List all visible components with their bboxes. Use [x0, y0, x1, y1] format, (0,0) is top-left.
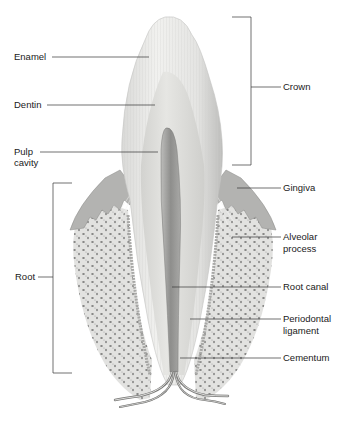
label-cementum: Cementum	[283, 352, 329, 363]
label-pulp-line1: Pulp	[14, 146, 33, 157]
root-bracket	[53, 183, 72, 373]
label-root: Root	[15, 271, 35, 282]
label-alveolar-line2: process	[283, 243, 316, 254]
label-crown: Crown	[283, 81, 310, 92]
label-periodontal-line2: ligament	[283, 325, 319, 336]
label-root-canal: Root canal	[283, 281, 328, 292]
label-periodontal-line1: Periodontal	[283, 313, 331, 324]
crown-bracket	[232, 17, 251, 165]
label-pulp-line2: cavity	[14, 157, 38, 168]
label-alveolar-line1: Alveolar	[283, 231, 317, 242]
label-enamel: Enamel	[14, 51, 46, 62]
label-gingiva: Gingiva	[283, 182, 315, 193]
label-dentin: Dentin	[14, 99, 41, 110]
